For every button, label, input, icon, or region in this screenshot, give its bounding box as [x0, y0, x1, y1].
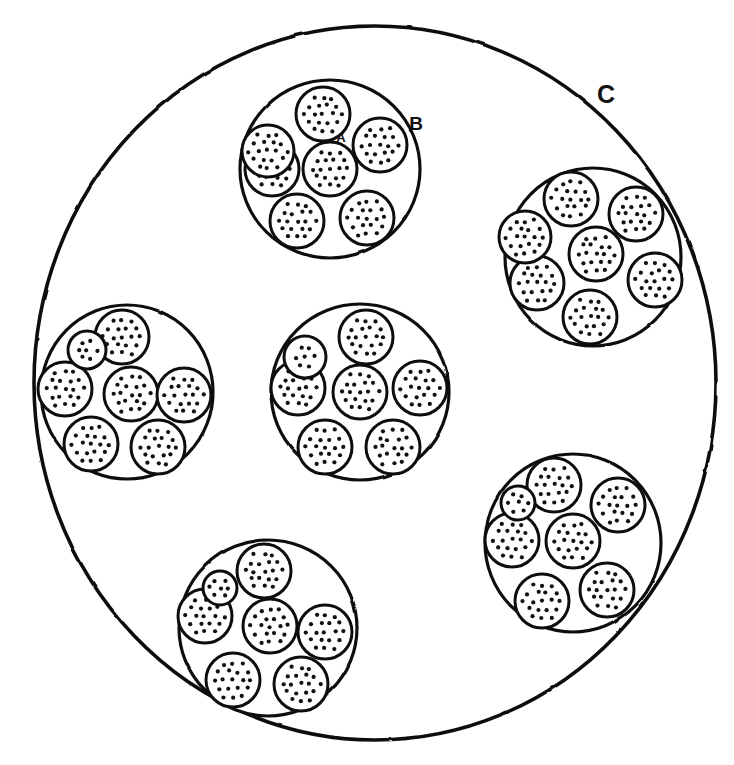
stipple-dot: [375, 334, 379, 338]
cluster-bottom-right-unit-ne: [591, 478, 645, 532]
stipple-dot: [314, 646, 318, 650]
stipple-dot: [367, 374, 371, 378]
stipple-dot: [279, 142, 283, 146]
stipple-dot: [171, 376, 175, 380]
cluster-bottom-right-unit-w: [485, 513, 539, 567]
stipple-dot: [640, 286, 644, 290]
stipple-dot: [323, 446, 327, 450]
stipple-dot: [294, 356, 298, 360]
stipple-dot: [258, 165, 262, 169]
stipple-dot: [285, 689, 289, 693]
stipple-dot: [377, 389, 381, 393]
stipple-dot: [318, 168, 322, 172]
stipple-dot: [260, 182, 264, 186]
stipple-dot: [574, 308, 578, 312]
stipple-dot: [302, 112, 306, 116]
stipple-dot: [117, 401, 121, 405]
stipple-dot: [315, 174, 319, 178]
stipple-dot: [626, 519, 630, 523]
stipple-dot: [271, 585, 275, 589]
stipple-dot: [269, 158, 273, 162]
stipple-dot: [363, 399, 367, 403]
stipple-dot: [596, 315, 600, 319]
stipple-dot: [202, 629, 206, 633]
stipple-dot: [526, 266, 530, 270]
stipple-dot: [593, 580, 597, 584]
stipple-dot: [345, 166, 349, 170]
stipple-dot: [88, 357, 92, 361]
stipple-dot: [364, 231, 368, 235]
stipple-dot: [615, 486, 619, 490]
stipple-dot: [540, 289, 544, 293]
stipple-dot: [380, 224, 384, 228]
stipple-dot: [667, 286, 671, 290]
stipple-dot: [333, 615, 337, 619]
stipple-dot: [333, 427, 337, 431]
stipple-dot: [76, 395, 80, 399]
stipple-dot: [93, 435, 97, 439]
stipple-dot: [595, 251, 599, 255]
stipple-dot: [202, 392, 206, 396]
stipple-dot: [174, 409, 178, 413]
stipple-dot: [183, 393, 187, 397]
stipple-dot: [620, 511, 624, 515]
stipple-dot: [543, 590, 547, 594]
stipple-dot: [167, 401, 171, 405]
stipple-dot: [596, 501, 600, 505]
stipple-dot: [207, 585, 211, 589]
stipple-dot: [642, 213, 646, 217]
stipple-dot: [642, 227, 646, 231]
stipple-dot: [613, 495, 617, 499]
stipple-dot: [375, 231, 379, 235]
stipple-dot: [505, 529, 509, 533]
stipple-dot: [386, 158, 390, 162]
stipple-dot: [291, 378, 295, 382]
stipple-dot: [71, 370, 75, 374]
stipple-dot: [110, 350, 114, 354]
stipple-dot: [303, 220, 307, 224]
stipple-dot: [262, 158, 266, 162]
stipple-dot: [379, 127, 383, 131]
stipple-dot: [80, 355, 84, 359]
stipple-dot: [272, 140, 276, 144]
stipple-dot: [45, 386, 49, 390]
stipple-dot: [579, 540, 583, 544]
stipple-dot: [195, 402, 199, 406]
stipple-dot: [267, 639, 271, 643]
stipple-dot: [74, 433, 78, 437]
cluster-bottom-center-unit-center: [243, 599, 297, 653]
cluster-bottom-right-unit-center: [546, 514, 600, 568]
stipple-dot: [300, 210, 304, 214]
stipple-dot: [155, 429, 159, 433]
stipple-dot: [350, 405, 354, 409]
stipple-dot: [365, 217, 369, 221]
stipple-dot: [129, 407, 133, 411]
stipple-dot: [130, 393, 134, 397]
stipple-dot: [360, 144, 364, 148]
stipple-dot: [277, 607, 281, 611]
stipple-dot: [138, 393, 142, 397]
stipple-dot: [536, 608, 540, 612]
stipple-dot: [522, 251, 526, 255]
stipple-dot: [263, 584, 267, 588]
stipple-dot: [363, 381, 367, 385]
stipple-dot: [278, 639, 282, 643]
stipple-dot: [284, 176, 288, 180]
stipple-dot: [119, 377, 123, 381]
stipple-dot: [265, 166, 269, 170]
stipple-dot: [404, 394, 408, 398]
stipple-dot: [398, 387, 402, 391]
stipple-dot: [223, 615, 227, 619]
stipple-dot: [230, 662, 234, 666]
stipple-dot: [304, 385, 308, 389]
stipple-dot: [291, 393, 295, 397]
stipple-dot: [378, 453, 382, 457]
stipple-dot: [657, 268, 661, 272]
stipple-dot: [589, 260, 593, 264]
stipple-dot: [599, 595, 603, 599]
stipple-dot: [286, 401, 290, 405]
stipple-dot: [365, 352, 369, 356]
stipple-dot: [304, 204, 308, 208]
stipple-dot: [349, 328, 353, 332]
stipple-dot: [282, 633, 286, 637]
